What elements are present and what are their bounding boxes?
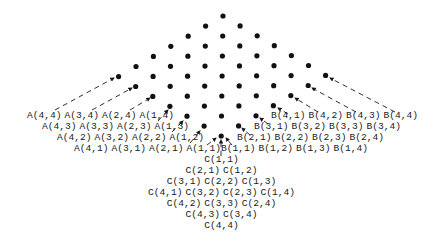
arrow-b bbox=[312, 88, 356, 112]
lattice-dot bbox=[272, 43, 277, 48]
lattice-dot bbox=[271, 83, 276, 88]
label-b: B(4,1) bbox=[271, 110, 306, 121]
label-c: C(1,3) bbox=[242, 176, 277, 187]
label-c: C(2,1) bbox=[186, 165, 221, 176]
lattice-dot bbox=[203, 24, 208, 29]
lattice-dot bbox=[219, 113, 224, 118]
lattice-dot bbox=[133, 64, 138, 69]
label-a: A(4,1) bbox=[74, 143, 109, 154]
lattice-dot bbox=[168, 84, 173, 89]
lattice-dot bbox=[151, 74, 156, 79]
label-a: A(2,4) bbox=[102, 110, 137, 121]
label-b: B(3,2) bbox=[292, 121, 327, 132]
lattice-dot bbox=[202, 104, 207, 109]
label-b: B(3,3) bbox=[329, 121, 364, 132]
label-c: C(2,2) bbox=[204, 176, 239, 187]
labels-c-family: C(1,1)C(2,1)C(1,2)C(3,1)C(2,2)C(1,3)C(4,… bbox=[148, 154, 295, 231]
label-b: B(3,1) bbox=[254, 121, 289, 132]
label-b: B(1,3) bbox=[296, 143, 331, 154]
labels-b-family: B(4,1)B(4,2)B(4,3)B(4,4)B(3,1)B(3,2)B(3,… bbox=[221, 110, 418, 154]
lattice-dot bbox=[306, 83, 311, 88]
label-b: B(4,2) bbox=[309, 110, 344, 121]
label-a: A(3,2) bbox=[95, 132, 130, 143]
lattice-dot bbox=[168, 64, 173, 69]
label-a: A(2,3) bbox=[117, 121, 152, 132]
lattice-dot bbox=[202, 64, 207, 69]
lattice-dot bbox=[236, 123, 241, 128]
label-c: C(3,2) bbox=[186, 187, 221, 198]
label-b: B(2,3) bbox=[312, 132, 347, 143]
label-c: C(4,1) bbox=[148, 187, 183, 198]
lattice-dot bbox=[220, 53, 225, 58]
label-b: B(2,2) bbox=[275, 132, 310, 143]
lattice-dot bbox=[150, 94, 155, 99]
label-c: C(2,3) bbox=[223, 187, 258, 198]
lattice-dot bbox=[237, 43, 242, 48]
label-a: A(3,3) bbox=[80, 121, 115, 132]
lattice-dot bbox=[253, 113, 258, 118]
label-a: A(3,4) bbox=[65, 110, 100, 121]
lattice-dot bbox=[254, 73, 259, 78]
lattice-dot bbox=[185, 54, 190, 59]
lattice-dot bbox=[271, 103, 276, 108]
label-c: C(1,1) bbox=[204, 154, 239, 165]
lattice-dot bbox=[237, 83, 242, 88]
lattice-dot bbox=[168, 44, 173, 49]
lattice-dot bbox=[133, 84, 138, 89]
label-c: C(3,3) bbox=[204, 198, 239, 209]
label-b: B(4,4) bbox=[384, 110, 419, 121]
label-b: B(1,2) bbox=[259, 143, 294, 154]
lattice-dot bbox=[254, 53, 259, 58]
label-c: C(3,4) bbox=[223, 209, 258, 220]
lattice-dot bbox=[116, 74, 121, 79]
lattice-dot bbox=[202, 124, 207, 129]
lattice-dot bbox=[151, 54, 156, 59]
label-c: C(2,4) bbox=[242, 198, 277, 209]
lattice-dot bbox=[237, 63, 242, 68]
labels-a-family: A(4,4)A(3,4)A(2,4)A(1,4)A(4,3)A(3,3)A(2,… bbox=[27, 110, 221, 154]
label-c: C(4,2) bbox=[167, 198, 202, 209]
label-a: A(1,3) bbox=[155, 121, 190, 132]
label-c: C(1,2) bbox=[223, 165, 258, 176]
lattice-dot bbox=[236, 103, 241, 108]
lattice-dot bbox=[184, 114, 189, 119]
lattice-dot bbox=[271, 63, 276, 68]
label-a: A(3,1) bbox=[112, 143, 147, 154]
lattice-dot bbox=[323, 73, 328, 78]
label-b: B(2,4) bbox=[350, 132, 385, 143]
label-a: A(4,4) bbox=[27, 110, 62, 121]
lattice-dot bbox=[202, 84, 207, 89]
lattice-dot bbox=[220, 13, 225, 18]
lattice-dot bbox=[220, 73, 225, 78]
lattice-dot bbox=[220, 33, 225, 38]
lattice-dot bbox=[254, 93, 259, 98]
label-a: A(4,3) bbox=[42, 121, 77, 132]
arrow-b bbox=[330, 78, 395, 112]
label-b: B(3,4) bbox=[367, 121, 402, 132]
label-c: C(4,3) bbox=[186, 209, 221, 220]
label-a: A(2,1) bbox=[149, 143, 184, 154]
lattice-dot bbox=[306, 63, 311, 68]
label-a: A(4,2) bbox=[57, 132, 92, 143]
lattice-dot bbox=[288, 93, 293, 98]
label-a: A(2,2) bbox=[132, 132, 167, 143]
lattice-dot bbox=[219, 93, 224, 98]
label-b: B(1,1) bbox=[221, 143, 256, 154]
lattice-dot bbox=[238, 23, 243, 28]
label-c: C(1,4) bbox=[261, 187, 296, 198]
lattice-dot bbox=[289, 53, 294, 58]
lattice-dot bbox=[185, 74, 190, 79]
label-b: B(4,3) bbox=[346, 110, 381, 121]
lattice-dot bbox=[219, 133, 224, 138]
arrow-a bbox=[55, 78, 114, 110]
label-a: A(1,4) bbox=[140, 110, 175, 121]
label-a: A(1,2) bbox=[170, 132, 205, 143]
lattice-diagram: A(4,4)A(3,4)A(2,4)A(1,4)A(4,3)A(3,3)A(2,… bbox=[0, 0, 437, 245]
lattice-dot bbox=[167, 104, 172, 109]
arrow-a bbox=[130, 98, 150, 110]
label-a: A(1,1) bbox=[187, 143, 222, 154]
lattice-dot bbox=[203, 44, 208, 49]
lattice-dot bbox=[186, 34, 191, 39]
label-b: B(2,1) bbox=[237, 132, 272, 143]
label-b: B(1,4) bbox=[334, 143, 369, 154]
